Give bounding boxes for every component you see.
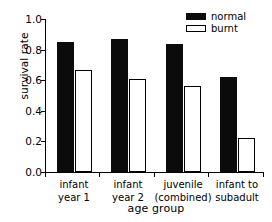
y-tick-label: 1.0 <box>25 14 42 25</box>
x-group-label-line: (combined) <box>154 192 211 205</box>
x-group-label-juvenile-combined: juvenile (combined) <box>154 179 211 204</box>
bar-normal-juvenile-combined <box>166 44 183 173</box>
y-tick-label: 0.2 <box>25 136 42 147</box>
legend-swatch-normal-icon <box>186 13 206 20</box>
x-group-label-line: infant <box>58 179 90 192</box>
bar-normal-infant-year-2 <box>111 39 128 172</box>
x-group-label-line: year 2 <box>112 192 144 205</box>
y-tick-label: 0.0 <box>25 167 42 178</box>
bar-normal-infant-to-subadult <box>220 77 237 172</box>
bar-normal-infant-year-1 <box>57 42 74 172</box>
x-tick <box>99 172 100 177</box>
chart-legend: normal burnt <box>186 11 246 35</box>
x-group-label-infant-year-2: infant year 2 <box>112 179 144 204</box>
legend-label-burnt: burnt <box>211 23 238 34</box>
x-tick <box>154 172 155 177</box>
legend-item-burnt: burnt <box>186 23 246 34</box>
x-group-label-infant-to-subadult: infant to subadult <box>215 179 258 204</box>
x-tick <box>208 172 209 177</box>
bar-burnt-juvenile-combined <box>184 86 201 172</box>
x-tick <box>45 172 46 177</box>
legend-item-normal: normal <box>186 11 246 22</box>
x-group-label-infant-year-1: infant year 1 <box>58 179 90 204</box>
y-tick-label: 0.8 <box>25 44 42 55</box>
x-tick <box>263 172 264 177</box>
legend-swatch-burnt-icon <box>186 25 206 32</box>
bar-chart-figure: survival rate age group 0.0 0.2 0.4 0.6 … <box>0 0 272 222</box>
bar-burnt-infant-year-1 <box>75 70 92 172</box>
x-group-label-line: infant <box>112 179 144 192</box>
bar-burnt-infant-to-subadult <box>238 138 255 172</box>
x-group-label-line: year 1 <box>58 192 90 205</box>
bar-burnt-infant-year-2 <box>129 79 146 172</box>
y-tick-label: 0.6 <box>25 75 42 86</box>
y-tick-label: 0.4 <box>25 106 42 117</box>
plot-area: 0.0 0.2 0.4 0.6 0.8 1.0 infant year 1 in… <box>45 19 263 172</box>
x-group-label-line: juvenile <box>154 179 211 192</box>
y-axis-line <box>45 19 46 173</box>
legend-label-normal: normal <box>211 11 246 22</box>
x-group-label-line: infant to <box>215 179 258 192</box>
x-group-label-line: subadult <box>215 192 258 205</box>
